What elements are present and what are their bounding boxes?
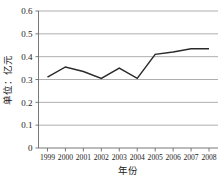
x-tick-label: 2008 xyxy=(201,153,216,162)
y-tick-label: 0.1 xyxy=(21,120,32,130)
x-tick-label: 1999 xyxy=(40,153,55,162)
x-tick-label: 2006 xyxy=(166,153,181,162)
y-tick-label: 0.6 xyxy=(21,6,33,16)
y-tick-label: 0.5 xyxy=(21,29,33,39)
x-tick-label: 2004 xyxy=(130,153,145,162)
line-chart: 00.10.20.30.40.50.6 19992000200120022003… xyxy=(0,0,224,180)
y-tick-label: 0.3 xyxy=(21,75,33,85)
x-tick-label: 2005 xyxy=(148,153,163,162)
y-tick-label: 0.4 xyxy=(21,52,33,62)
x-tick-label: 2001 xyxy=(76,153,91,162)
y-tick-label: 0 xyxy=(28,143,33,153)
x-tick-label: 2002 xyxy=(94,153,109,162)
x-axis-title: 年份 xyxy=(118,165,138,176)
y-axis-title: 单位：亿元 xyxy=(2,55,13,105)
y-tick-label: 0.2 xyxy=(21,98,32,108)
x-tick-label: 2000 xyxy=(58,153,73,162)
chart-canvas: 00.10.20.30.40.50.6 19992000200120022003… xyxy=(0,0,224,180)
x-tick-label: 2007 xyxy=(183,153,198,162)
x-tick-label: 2003 xyxy=(112,153,127,162)
